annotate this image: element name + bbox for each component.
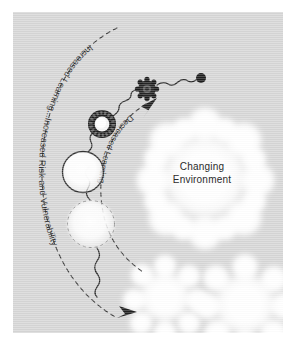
figure-canvas: Increased Learning...Increased Risk and …	[0, 0, 299, 355]
node-5-smallest-solid	[196, 73, 206, 83]
node-1-largest-faint	[67, 200, 115, 248]
cloud-main	[134, 105, 277, 252]
cloud-group	[121, 105, 283, 333]
cloud-lower-right	[192, 252, 283, 333]
trajectory-segment-4	[157, 80, 196, 85]
trajectory-segment-3	[113, 90, 136, 116]
diagram-panel: Increased Learning...Increased Risk and …	[13, 12, 283, 333]
diagram-svg: Increased Learning...Increased Risk and …	[13, 12, 283, 333]
node-3-medium-dark-ring	[88, 110, 116, 138]
trajectory-segment-tail	[95, 248, 100, 297]
node-4-small-dark-spiky	[135, 77, 159, 101]
node-2-large-outlined	[62, 151, 104, 193]
